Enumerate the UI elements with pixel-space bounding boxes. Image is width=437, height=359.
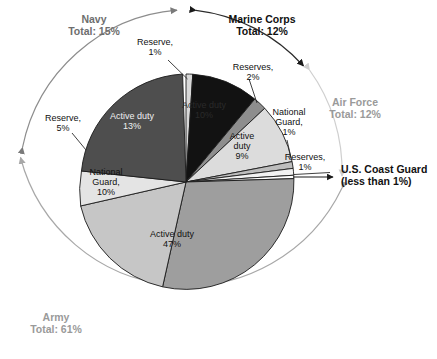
slice-label-marine-active-duty: Active duty 10% bbox=[182, 100, 226, 120]
callout-airforce-reserves: Reserves, 1% bbox=[285, 152, 326, 172]
slice-label-army-ng-line1: National bbox=[89, 167, 122, 177]
branch-label-army: Army Total: 61% bbox=[30, 312, 82, 336]
callout-army-reserve: Reserve, 5% bbox=[45, 113, 81, 133]
slice-label-af-active-line3: 9% bbox=[230, 151, 255, 161]
branch-total-army: Total: 61% bbox=[30, 324, 82, 336]
callout-airforce-national-guard: National Guard, 1% bbox=[272, 107, 305, 137]
slice-label-airforce-active-duty: Active duty 9% bbox=[230, 131, 255, 161]
slice-label-marine-active-line2: 10% bbox=[182, 110, 226, 120]
slice-label-army-active-duty: Active duty 47% bbox=[150, 229, 194, 249]
coast-guard-label: U.S. Coast Guard (less than 1%) bbox=[341, 163, 427, 188]
coast-guard-share: (less than 1%) bbox=[341, 175, 427, 187]
callout-af-ng-line2: Guard, bbox=[272, 117, 305, 127]
callout-marine-reserves-line2: 2% bbox=[233, 72, 274, 82]
slice-label-army-ng-line2: Guard, bbox=[89, 177, 122, 187]
leader-army-reserve bbox=[72, 133, 86, 150]
slice-label-army-active-line2: 47% bbox=[150, 239, 194, 249]
slice-label-army-national-guard: National Guard, 10% bbox=[89, 167, 122, 197]
slice-label-navy-active-line2: 13% bbox=[110, 121, 154, 131]
callout-army-reserve-line2: 5% bbox=[45, 123, 81, 133]
slice-label-army-ng-line3: 10% bbox=[89, 187, 122, 197]
slice-label-af-active-line2: duty bbox=[230, 141, 255, 151]
callout-af-res-line1: Reserves, bbox=[285, 152, 326, 162]
branch-label-air-force: Air Force Total: 12% bbox=[329, 97, 381, 121]
branch-name-air-force: Air Force bbox=[329, 97, 381, 109]
slice-label-af-active-line1: Active bbox=[230, 131, 255, 141]
leader-airforce-reserves bbox=[294, 173, 330, 175]
chart-figure: Navy Total: 15% Marine Corps Total: 12% … bbox=[0, 0, 437, 359]
callout-navy-reserve-line2: 1% bbox=[137, 47, 173, 57]
callout-marine-reserves: Reserves, 2% bbox=[233, 62, 274, 82]
callout-marine-reserves-line1: Reserves, bbox=[233, 62, 274, 72]
branch-name-marine-corps: Marine Corps bbox=[228, 14, 295, 26]
callout-army-reserve-line1: Reserve, bbox=[45, 113, 81, 123]
branch-total-air-force: Total: 12% bbox=[329, 109, 381, 121]
callout-navy-reserve-line1: Reserve, bbox=[137, 37, 173, 47]
branch-total-marine-corps: Total: 12% bbox=[228, 26, 295, 38]
callout-af-ng-line1: National bbox=[272, 107, 305, 117]
slice-label-army-active-line1: Active duty bbox=[150, 229, 194, 239]
branch-label-marine-corps: Marine Corps Total: 12% bbox=[228, 14, 295, 38]
slice-label-marine-active-line1: Active duty bbox=[182, 100, 226, 110]
branch-name-army: Army bbox=[30, 312, 82, 324]
callout-af-res-line2: 1% bbox=[285, 162, 326, 172]
callout-af-ng-line3: 1% bbox=[272, 127, 305, 137]
callout-navy-reserve: Reserve, 1% bbox=[137, 37, 173, 57]
branch-label-navy: Navy Total: 15% bbox=[68, 14, 120, 38]
slice-label-navy-active-duty: Active duty 13% bbox=[110, 111, 154, 131]
coast-guard-name: U.S. Coast Guard bbox=[341, 163, 427, 175]
slice-label-navy-active-line1: Active duty bbox=[110, 111, 154, 121]
branch-total-navy: Total: 15% bbox=[68, 26, 120, 38]
branch-name-navy: Navy bbox=[68, 14, 120, 26]
